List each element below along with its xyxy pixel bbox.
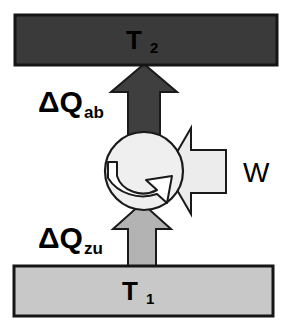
hot-reservoir-bar	[15, 15, 277, 65]
heat-input-label: ΔQ zu	[38, 221, 103, 258]
hot-reservoir-subscript: 2	[150, 39, 158, 56]
cold-reservoir: T 1	[14, 266, 273, 316]
hot-reservoir-label: T	[126, 25, 142, 55]
hot-reservoir: T 2	[15, 15, 277, 65]
cold-reservoir-bar	[14, 266, 273, 316]
work-label-text: W	[243, 157, 270, 188]
work-label: W	[243, 157, 270, 188]
cold-reservoir-subscript: 1	[146, 290, 154, 307]
heat-input-label-subscript: zu	[84, 239, 103, 258]
diagram-canvas: T 2 T 1 ΔQ ab ΔQ zu W	[0, 0, 290, 332]
heat-input-label-text: ΔQ	[38, 221, 83, 254]
heat-output-label-text: ΔQ	[38, 85, 83, 118]
heat-input-arrow-shape	[113, 203, 171, 272]
heat-output-label-subscript: ab	[84, 103, 104, 122]
heat-output-label: ΔQ ab	[38, 85, 104, 122]
cycle-machine	[105, 132, 183, 210]
heat-input-arrow	[113, 203, 171, 272]
thermodynamic-cycle-diagram: T 2 T 1 ΔQ ab ΔQ zu W	[0, 0, 290, 332]
cold-reservoir-label: T	[122, 276, 138, 306]
